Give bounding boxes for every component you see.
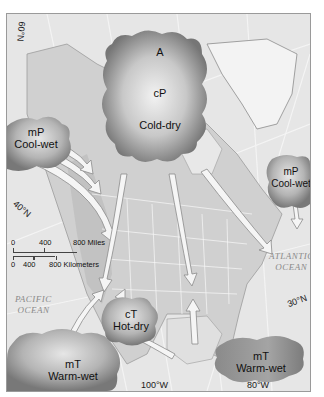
air-mass-a-cp-label: A cP Cold-dry — [127, 46, 193, 131]
map-frame: 60°N 40°N 30°N 100°W 80°W PACIFIC OCEAN … — [6, 13, 311, 392]
scale-miles-400: 400 — [39, 238, 52, 247]
map-scale: 0 400 800 Miles 0 400 800 Kilometers — [11, 238, 131, 268]
scale-km-800: 800 Kilometers — [49, 260, 99, 269]
air-mass-description: Warm-wet — [225, 362, 297, 374]
longitude-label-100w: 100°W — [141, 380, 168, 390]
air-mass-code: cT — [105, 308, 157, 320]
air-mass-mt-pacific-label: mT Warm-wet — [37, 358, 109, 382]
air-mass-code: cP — [127, 87, 193, 99]
air-mass-description: Cool-wet — [7, 138, 65, 150]
air-mass-description: Cool-wet — [269, 178, 311, 190]
scale-miles-0: 0 — [11, 238, 15, 247]
scale-tick — [13, 248, 45, 252]
air-mass-mt-gulf-label: mT Warm-wet — [225, 350, 297, 374]
latitude-label-60n: 60°N — [15, 21, 27, 42]
scale-km-400: 400 — [23, 260, 36, 269]
air-mass-code: mP — [7, 126, 65, 138]
scale-miles-800: 800 Miles — [73, 238, 105, 247]
pacific-ocean-label: PACIFIC OCEAN — [15, 294, 52, 316]
longitude-label-80w: 80°W — [247, 380, 269, 390]
air-mass-description: Cold-dry — [127, 119, 193, 131]
scale-bar-miles — [13, 252, 77, 253]
air-mass-code: A — [127, 46, 193, 58]
ocean-name: OCEAN — [15, 305, 52, 316]
scale-km-0: 0 — [11, 260, 15, 269]
air-mass-mp-atlantic-label: mP Cool-wet — [269, 166, 311, 190]
air-mass-code: mP — [269, 166, 311, 178]
air-mass-code: mT — [225, 350, 297, 362]
atlantic-ocean-label: ATLANTIC OCEAN — [269, 251, 311, 273]
air-mass-ct-label: cT Hot-dry — [105, 308, 157, 332]
ocean-name: PACIFIC — [15, 294, 52, 305]
ocean-name: OCEAN — [269, 262, 311, 273]
air-mass-description: Hot-dry — [105, 320, 157, 332]
air-mass-code: mT — [37, 358, 109, 370]
air-mass-description: Warm-wet — [37, 370, 109, 382]
ocean-name: ATLANTIC — [269, 251, 311, 262]
air-mass-mp-pacific-label: mP Cool-wet — [7, 126, 65, 150]
